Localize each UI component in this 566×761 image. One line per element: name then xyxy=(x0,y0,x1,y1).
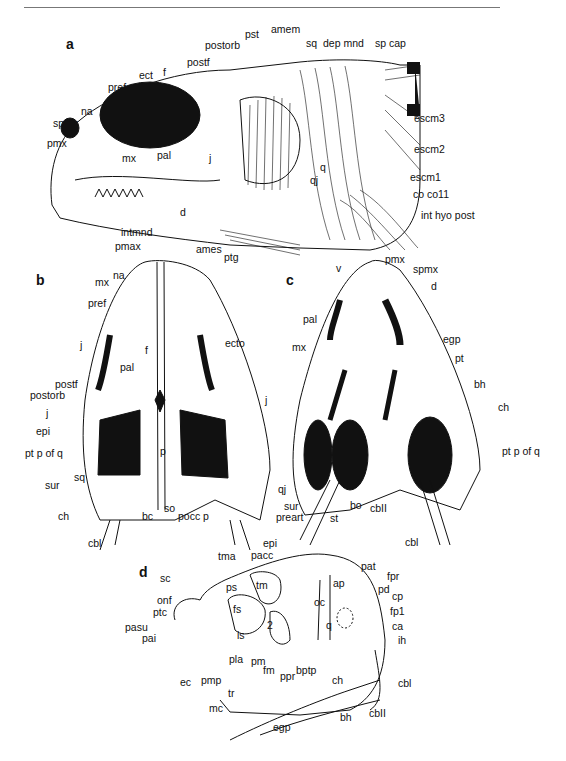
label-d-cp: cp xyxy=(392,591,403,602)
label-a-spmx: spmx xyxy=(53,118,78,129)
label-b-j-1: j xyxy=(80,340,82,351)
label-b-pal: pal xyxy=(120,362,134,373)
label-d-ps: ps xyxy=(226,582,237,593)
label-a-postorb: postorb xyxy=(205,40,240,51)
label-a-escm3: escm3 xyxy=(414,113,445,124)
label-c-d: d xyxy=(431,281,437,292)
label-c-egp: egp xyxy=(443,334,461,345)
label-a-ptg: ptg xyxy=(224,252,239,263)
label-d-pla: pla xyxy=(229,654,243,665)
panel-d-drawing xyxy=(174,554,385,740)
panel-a-drawing xyxy=(51,60,420,255)
label-d-ec: ec xyxy=(180,677,191,688)
label-b-p: p xyxy=(160,446,166,457)
label-b-postorb: postorb xyxy=(30,390,65,401)
label-d-cbII: cbII xyxy=(369,708,386,719)
label-b-pmax: pmax xyxy=(115,241,141,252)
label-a-na: na xyxy=(81,106,93,117)
label-d-q: q xyxy=(326,620,332,631)
label-b-pref: pref xyxy=(88,298,106,309)
label-a-q: q xyxy=(320,162,326,173)
label-b-pocc-p: pocc p xyxy=(178,511,209,522)
label-c-bo: bo xyxy=(350,500,362,511)
label-a-sq: sq xyxy=(306,38,317,49)
label-d-egp: egp xyxy=(273,722,291,733)
label-d-fpr: fpr xyxy=(387,571,399,582)
label-b-f: f xyxy=(145,345,148,356)
label-a-escm2: escm2 xyxy=(414,144,445,155)
panel-b-drawing xyxy=(83,261,270,550)
label-d-pacc: pacc xyxy=(251,550,273,561)
label-a-amem: amem xyxy=(271,24,300,35)
label-d-bh: bh xyxy=(340,712,352,723)
label-a-postf: postf xyxy=(187,57,210,68)
label-b-so: so xyxy=(164,503,175,514)
label-d-tr: tr xyxy=(228,688,234,699)
label-b-sur: sur xyxy=(45,480,60,491)
label-d-ppr: ppr xyxy=(280,671,295,682)
label-c-v: v xyxy=(336,263,341,274)
label-b-ch: ch xyxy=(58,511,69,522)
label-a-d: d xyxy=(180,207,186,218)
label-c-cbII: cbII xyxy=(370,503,387,514)
label-d-pat: pat xyxy=(361,561,376,572)
label-a-pmx: pmx xyxy=(47,138,67,149)
label-b-bc: bc xyxy=(142,511,153,522)
label-d-sc: sc xyxy=(160,573,171,584)
label-a-qj: qj xyxy=(310,175,318,186)
label-d-pd: pd xyxy=(378,584,390,595)
label-d-fp1: fp1 xyxy=(390,606,405,617)
label-d-fs: fs xyxy=(233,604,241,615)
label-c-st: st xyxy=(330,513,338,524)
label-b-cbl: cbl xyxy=(88,538,101,549)
label-d-ap: ap xyxy=(333,578,345,589)
label-a-pref: pref xyxy=(108,82,126,93)
panel-label-a: a xyxy=(66,36,74,52)
label-c-preart: preart xyxy=(276,512,303,523)
label-b-epi: epi xyxy=(36,426,50,437)
label-d-onf: onf xyxy=(157,595,172,606)
label-d-mc: mc xyxy=(209,703,223,714)
label-b-j-3: j xyxy=(265,395,267,406)
label-a-sp-cap: sp cap xyxy=(375,38,406,49)
label-a-f: f xyxy=(163,67,166,78)
label-d-ptc: ptc xyxy=(153,607,167,618)
label-d-tma: tma xyxy=(218,551,236,562)
label-d-oc: oc xyxy=(314,597,325,608)
label-c-bh: bh xyxy=(474,379,486,390)
label-b-na: na xyxy=(113,270,125,281)
label-c-mx: mx xyxy=(292,342,306,353)
label-d-is: is xyxy=(237,630,245,641)
label-d-2: 2 xyxy=(267,620,273,631)
label-a-j: j xyxy=(209,153,211,164)
label-d-ch: ch xyxy=(332,675,343,686)
label-b-j-2: j xyxy=(46,408,48,419)
label-c-pt: pt xyxy=(455,353,464,364)
label-b-mx: mx xyxy=(95,277,109,288)
label-c-pmx: pmx xyxy=(385,254,405,265)
label-c-qj: qj xyxy=(278,484,286,495)
label-c-pal: pal xyxy=(303,314,317,325)
label-a-escm1: escm1 xyxy=(410,172,441,183)
label-d-tm: tm xyxy=(256,580,268,591)
label-a-pst: pst xyxy=(245,29,259,40)
label-a-ect: ect xyxy=(139,70,153,81)
label-b-ecto: ecto xyxy=(225,338,245,349)
label-a-pal: pal xyxy=(157,150,171,161)
label-c-cbl: cbl xyxy=(405,537,418,548)
label-d-epi: epi xyxy=(263,538,277,549)
label-d-cbl: cbl xyxy=(398,678,411,689)
panel-label-d: d xyxy=(139,564,148,580)
label-b-pt-p-of-q: pt p of q xyxy=(25,448,63,459)
label-d-ca: ca xyxy=(392,621,403,632)
label-c-ch: ch xyxy=(498,402,509,413)
label-a-int-hyo-post: int hyo post xyxy=(421,210,475,221)
label-b-sq: sq xyxy=(74,472,85,483)
label-a-dep-mnd: dep mnd xyxy=(323,38,364,49)
label-c-spmx: spmx xyxy=(413,264,438,275)
label-a-mx: mx xyxy=(122,153,136,164)
label-c-pt-p-of-q: pt p of q xyxy=(502,446,540,457)
label-d-fm: fm xyxy=(263,665,275,676)
label-d-pmp: pmp xyxy=(201,675,221,686)
label-d-pai: pai xyxy=(142,633,156,644)
